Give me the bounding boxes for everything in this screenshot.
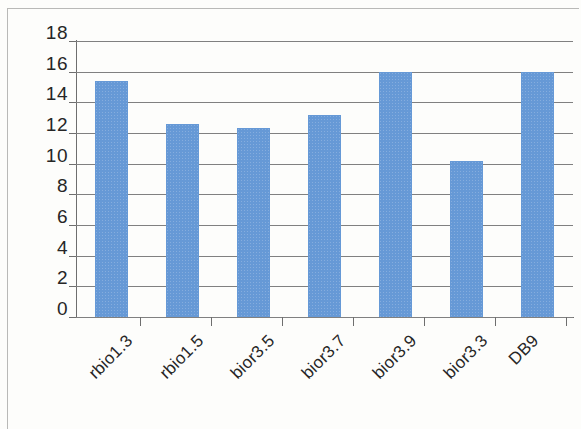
y-axis-tick bbox=[69, 317, 76, 318]
bar[interactable] bbox=[95, 81, 128, 317]
x-axis-category-label: DB9 bbox=[504, 331, 542, 369]
x-axis-end-tick bbox=[566, 317, 567, 326]
y-axis-tick-label: 4 bbox=[26, 238, 68, 257]
y-axis-tick bbox=[69, 133, 76, 134]
x-axis-tick bbox=[282, 317, 283, 326]
x-axis-category-label: rbio1.3 bbox=[84, 331, 136, 383]
bar[interactable] bbox=[166, 124, 199, 317]
bar[interactable] bbox=[379, 72, 412, 317]
x-axis-category-label: bior3.5 bbox=[226, 331, 278, 383]
y-axis-tick-label: 14 bbox=[26, 84, 68, 103]
bar[interactable] bbox=[237, 128, 270, 317]
x-axis-tick bbox=[353, 317, 354, 326]
y-axis-tick bbox=[69, 164, 76, 165]
y-axis-tick-label: 12 bbox=[26, 115, 68, 134]
bar[interactable] bbox=[308, 115, 341, 317]
x-axis-tick bbox=[495, 317, 496, 326]
y-axis-tick-label: 8 bbox=[26, 176, 68, 195]
y-axis-tick bbox=[69, 194, 76, 195]
x-axis-tick bbox=[424, 317, 425, 326]
x-axis-category-label: bior3.3 bbox=[439, 331, 491, 383]
y-axis-tick bbox=[69, 41, 76, 42]
gridline bbox=[76, 41, 573, 42]
chart-frame: 181614121086420 rbio1.3rbio1.5bior3.5bio… bbox=[7, 8, 579, 429]
y-axis-tick-label: 2 bbox=[26, 268, 68, 287]
bar[interactable] bbox=[521, 72, 554, 317]
y-axis-tick bbox=[69, 225, 76, 226]
y-axis-tick bbox=[69, 286, 76, 287]
y-axis-tick-label: 16 bbox=[26, 54, 68, 73]
bar[interactable] bbox=[450, 161, 483, 317]
y-axis-tick bbox=[69, 102, 76, 103]
y-axis-tick-label: 6 bbox=[26, 207, 68, 226]
x-axis-category-label: bior3.7 bbox=[297, 331, 349, 383]
gridline bbox=[76, 102, 573, 103]
x-axis-category-label: bior3.9 bbox=[368, 331, 420, 383]
y-axis-tick bbox=[69, 72, 76, 73]
x-axis-tick bbox=[211, 317, 212, 326]
plot-area bbox=[76, 41, 573, 317]
y-axis-tick-label: 0 bbox=[26, 299, 68, 318]
y-axis-tick-label: 18 bbox=[26, 23, 68, 42]
x-axis-category-label: rbio1.5 bbox=[155, 331, 207, 383]
x-axis-tick bbox=[140, 317, 141, 326]
y-axis-tick-label: 10 bbox=[26, 146, 68, 165]
gridline bbox=[76, 72, 573, 73]
y-axis-tick bbox=[69, 256, 76, 257]
gridline bbox=[76, 317, 573, 318]
